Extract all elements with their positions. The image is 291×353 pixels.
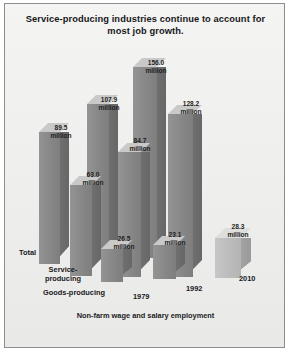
year-label-1992: 1992 — [186, 284, 202, 293]
bar-front-face — [101, 249, 123, 282]
value-label-goods-2010: 28.3 million — [216, 223, 260, 238]
value-label-service-1992: 84.7 million — [119, 137, 161, 152]
value-label-total-1979: 89.5 million — [41, 124, 81, 139]
value-label-service-2010: 128.2 million — [169, 100, 213, 115]
category-label-service-producing: Service- producing — [33, 266, 93, 283]
value-label-goods-1992: 23.1 million — [154, 231, 196, 246]
bar-front-face — [215, 238, 241, 278]
category-label-goods-producing: Goods-producing — [43, 289, 105, 298]
bar-side-face — [141, 152, 150, 269]
bar-side-face — [241, 238, 251, 269]
chart-title: Service-producing industries continue to… — [19, 14, 272, 37]
year-label-1979: 1979 — [133, 292, 149, 301]
bar-front-face — [70, 185, 92, 276]
value-label-total-1992: 107.9 million — [88, 96, 130, 111]
category-label-total: Total — [19, 249, 36, 258]
value-label-total-2010: 156.0 million — [134, 59, 178, 74]
chart-footer-caption: Non-farm wage and salary employment — [15, 311, 276, 320]
bar-front-face — [153, 245, 176, 279]
bar-side-face — [60, 132, 69, 256]
bar-side-face — [123, 249, 132, 274]
year-label-2010: 2010 — [239, 274, 255, 283]
bar-side-face — [176, 245, 185, 271]
bar-front-face — [39, 132, 60, 264]
value-label-goods-1979: 26.5 million — [103, 235, 145, 250]
chart-canvas: Service-producing industries continue to… — [5, 4, 284, 347]
chart-frame: Service-producing industries continue to… — [4, 3, 285, 348]
value-label-service-1979: 63.0 million — [72, 171, 114, 186]
bar-side-face — [92, 185, 101, 268]
